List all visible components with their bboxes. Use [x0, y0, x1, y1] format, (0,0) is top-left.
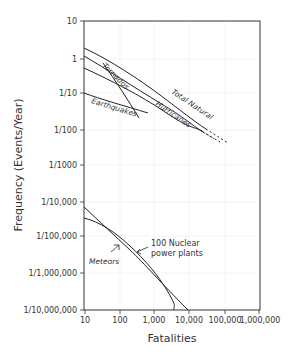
y-tick-label: 1/1000	[49, 161, 77, 170]
label-meteors: Meteors	[89, 257, 119, 266]
y-tick-label: 1/100,000	[36, 232, 77, 241]
label-nuclear-line1: 100 Nuclear	[151, 239, 200, 248]
x-tick-label: 1,000	[143, 316, 166, 325]
label-tornados: Tornados	[101, 61, 131, 91]
y-tick-label: 1/1,000,000	[29, 269, 78, 278]
y-tick-label: 1/10,000	[41, 198, 77, 207]
y-tick-label: 1	[72, 55, 77, 64]
x-tick-label: 100	[112, 316, 127, 325]
label-earthquakes: Earthquakes	[90, 96, 138, 118]
arrow-nuclear	[137, 247, 148, 254]
x-axis-title: Fatalities	[147, 332, 196, 345]
x-tick-label: 10,000	[175, 316, 203, 325]
x-tick-label: 1,000,000	[240, 316, 281, 325]
risk-frequency-chart: 10 1 1/10 1/100 1/1000 1/10,000 1/100,00…	[0, 0, 294, 361]
x-tick-label: 10	[80, 316, 90, 325]
x-tick-label: 100,000	[208, 316, 241, 325]
series-hurricanes-dashed	[203, 132, 220, 142]
y-tick-label: 1/10	[59, 89, 77, 98]
arrow-meteors	[111, 245, 119, 252]
series-total-natural	[84, 48, 206, 129]
label-nuclear-line2: power plants	[151, 249, 203, 258]
y-axis-title: Frequency (Events/Year)	[12, 98, 25, 231]
y-axis	[80, 21, 84, 310]
y-tick-label: 10	[67, 17, 77, 26]
y-tick-label: 1/10,000,000	[23, 306, 77, 315]
y-tick-label: 1/100	[54, 126, 77, 135]
x-axis	[85, 310, 259, 314]
